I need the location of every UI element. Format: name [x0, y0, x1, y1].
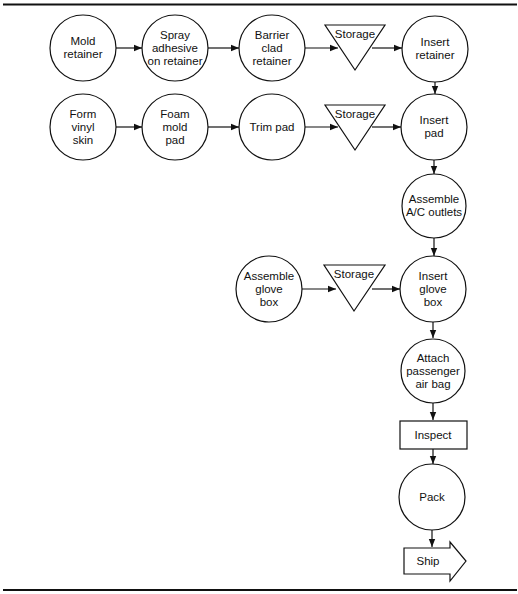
label-assemble-glove: Assemble glove box — [244, 270, 295, 309]
label-storage-1: Storage — [335, 28, 375, 41]
label-spray-adhesive: Spray adhesive on retainer — [148, 29, 203, 68]
label-attach-airbag: Attach passenger air bag — [406, 352, 460, 391]
label-foam-mold: Foam mold pad — [160, 108, 189, 147]
label-assemble-ac: Assemble A/C outlets — [406, 193, 462, 219]
label-insert-pad: Insert pad — [420, 114, 449, 140]
label-insert-glove: Insert glove box — [419, 270, 448, 309]
label-barrier-clad: Barrier clad retainer — [253, 29, 292, 68]
label-storage-3: Storage — [334, 268, 374, 281]
label-trim-pad: Trim pad — [250, 121, 295, 134]
process-flow-diagram: Mold retainer Spray adhesive on retainer… — [0, 0, 518, 594]
label-storage-2: Storage — [335, 108, 375, 121]
label-ship: Ship — [416, 555, 439, 568]
label-pack: Pack — [419, 491, 445, 504]
label-form-vinyl: Form vinyl skin — [70, 108, 97, 147]
label-mold-retainer: Mold retainer — [64, 35, 103, 61]
label-inspect: Inspect — [414, 429, 451, 442]
label-insert-retainer: Insert retainer — [416, 36, 455, 62]
